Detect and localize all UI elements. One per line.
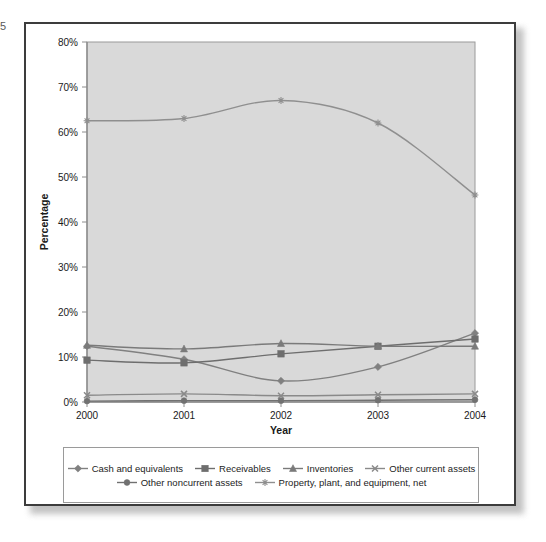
data-point-star: [261, 479, 268, 486]
y-tick-label: 30%: [58, 262, 78, 273]
y-tick-label: 10%: [58, 352, 78, 363]
legend-item[interactable]: Cash and equivalents: [67, 463, 183, 474]
data-point-square: [278, 351, 284, 357]
y-tick-label: 70%: [58, 82, 78, 93]
data-point-circle: [181, 398, 187, 404]
legend-marker-diamond: [67, 463, 89, 474]
line-chart: 0%10%20%30%40%50%60%70%80% 2000200120022…: [26, 24, 514, 504]
data-point-star: [278, 97, 285, 104]
legend-marker-cross: [364, 463, 386, 474]
legend-item-label: Cash and equivalents: [92, 463, 183, 474]
legend-row-2: Other noncurrent assetsProperty, plant, …: [116, 477, 427, 488]
data-point-circle: [278, 398, 284, 404]
y-tick-label: 0%: [64, 397, 79, 408]
chart-legend: Cash and equivalentsReceivablesInventori…: [63, 447, 479, 503]
data-point-diamond: [74, 464, 81, 471]
y-tick-label: 80%: [58, 37, 78, 48]
legend-item-label: Inventories: [307, 463, 353, 474]
legend-item[interactable]: Other noncurrent assets: [116, 477, 243, 488]
y-tick-label: 40%: [58, 217, 78, 228]
data-point-square: [84, 357, 90, 363]
x-axis: 20002001200220032004: [76, 402, 487, 421]
legend-item[interactable]: Other current assets: [364, 463, 475, 474]
page-number: 5: [0, 20, 6, 32]
y-axis-title: Percentage: [38, 194, 50, 251]
legend-item-label: Property, plant, and equipment, net: [279, 477, 427, 488]
data-point-circle: [124, 479, 130, 485]
y-tick-label: 60%: [58, 127, 78, 138]
legend-item-label: Receivables: [219, 463, 271, 474]
data-point-star: [181, 115, 188, 122]
legend-item-label: Other current assets: [389, 463, 475, 474]
legend-item[interactable]: Property, plant, and equipment, net: [254, 477, 427, 488]
x-axis-title: Year: [270, 424, 292, 436]
figure-frame: 0%10%20%30%40%50%60%70%80% 2000200120022…: [24, 22, 516, 506]
x-tick-label: 2000: [76, 410, 99, 421]
data-point-circle: [472, 397, 478, 403]
data-point-star: [84, 117, 91, 124]
data-point-star: [472, 192, 479, 199]
x-tick-label: 2001: [173, 410, 196, 421]
y-tick-label: 20%: [58, 307, 78, 318]
legend-row-1: Cash and equivalentsReceivablesInventori…: [67, 463, 476, 474]
x-tick-label: 2002: [270, 410, 293, 421]
legend-marker-square: [194, 463, 216, 474]
data-point-star: [375, 120, 382, 127]
y-tick-label: 50%: [58, 172, 78, 183]
x-tick-label: 2003: [367, 410, 390, 421]
x-tick-label: 2004: [464, 410, 487, 421]
data-point-circle: [84, 398, 90, 404]
data-point-square: [472, 336, 478, 342]
legend-item[interactable]: Receivables: [194, 463, 271, 474]
data-point-square: [181, 360, 187, 366]
data-point-circle: [375, 397, 381, 403]
legend-marker-triangle: [282, 463, 304, 474]
legend-item-label: Other noncurrent assets: [141, 477, 243, 488]
legend-marker-circle: [116, 477, 138, 488]
legend-marker-star: [254, 477, 276, 488]
data-point-square: [202, 465, 208, 471]
legend-item[interactable]: Inventories: [282, 463, 353, 474]
y-axis: 0%10%20%30%40%50%60%70%80%: [58, 37, 87, 408]
